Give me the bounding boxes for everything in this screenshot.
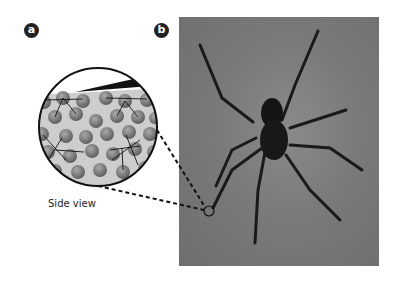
diagram-graphics <box>0 0 400 282</box>
magnified-view <box>35 65 165 190</box>
side-view-caption: Side view <box>48 198 96 209</box>
contact-point-marker <box>204 206 214 216</box>
spider <box>200 31 362 243</box>
